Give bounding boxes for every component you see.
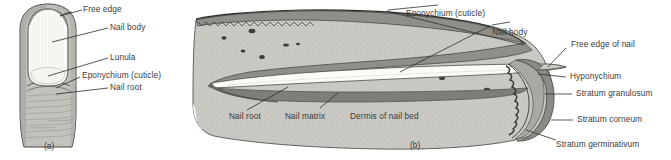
panel-a-id: (a) [44,141,54,151]
panel-b-id: (b) [410,140,420,150]
label-stratum-corneum: Stratum corneum [577,115,642,124]
label-nail-matrix: Nail matrix [285,112,325,121]
label-eponychium-a: Eponychium (cuticle) [82,71,161,80]
label-lunula-a: Lunula [110,53,136,62]
label-nail-root-a: Nail root [110,83,142,92]
nail-anatomy-figure: Free edge Nail body Lunula Eponychium (c… [0,0,671,160]
label-eponychium-b: Eponychium (cuticle) [406,9,485,18]
label-hyponychium: Hyponychium [570,72,621,81]
label-dermis-of-nail-bed: Dermis of nail bed [350,112,419,121]
label-free-edge-of-nail: Free edge of nail [571,40,635,49]
label-stratum-granulosum: Stratum granulosum [576,89,653,98]
label-free-edge-a: Free edge [83,5,122,14]
panel-a-artwork [20,4,76,147]
label-stratum-germinativum: Stratum germinativum [556,140,639,149]
label-nail-body-b: Nail body [492,28,528,37]
label-nail-root-b: Nail root [229,112,261,121]
label-nail-body-a: Nail body [110,23,146,32]
